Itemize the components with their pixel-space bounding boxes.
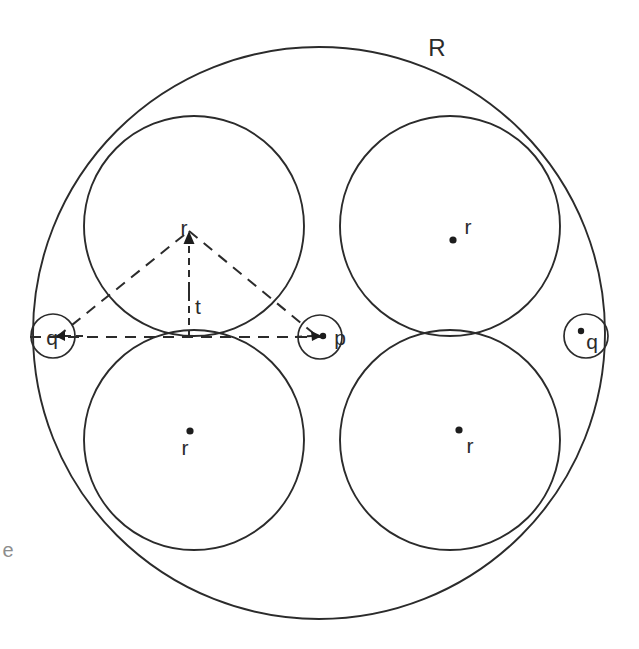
center-dot-bottom-right	[455, 426, 462, 433]
label-circle-r-bottom-right: r	[467, 434, 474, 457]
label-corner-q-left: q	[46, 326, 58, 349]
center-dot-q-right	[578, 328, 584, 334]
center-dot-p	[320, 333, 326, 339]
large-circle-bottom-left	[84, 330, 304, 550]
label-circle-r-top-right: r	[465, 215, 472, 238]
label-corner-q-right: q	[586, 330, 598, 353]
dashed-triangle-right-leg	[189, 231, 318, 337]
center-dot-top-right	[449, 236, 456, 243]
center-dot-bottom-left	[186, 427, 193, 434]
label-center-p: p	[334, 326, 346, 349]
label-tangent-t: t	[195, 295, 201, 318]
dashed-triangle-left-leg	[57, 231, 189, 337]
diagram-canvas: R r r r r t p q q e	[0, 0, 639, 649]
label-margin-mark-e: e	[2, 539, 13, 561]
circle-packing-diagram: R r r r r t p q q e	[0, 0, 639, 649]
large-circle-top-right	[340, 116, 560, 336]
outer-circle-R	[33, 47, 605, 619]
label-circle-r-bottom-left: r	[182, 436, 189, 459]
large-circle-top-left	[84, 116, 304, 336]
label-radius-arrow-r: r	[181, 216, 188, 239]
label-outer-radius-R: R	[428, 34, 445, 61]
large-circle-bottom-right	[340, 330, 560, 550]
